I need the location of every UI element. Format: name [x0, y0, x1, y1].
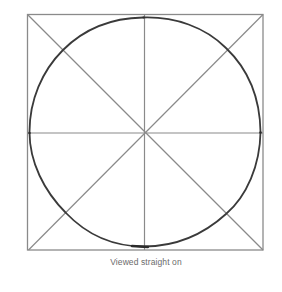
tangent-mark-left	[28, 132, 30, 134]
tangent-mark-top	[142, 16, 144, 18]
tangent-mark-bottom	[132, 246, 148, 247]
circle-in-square-diagram: Viewed straight on	[0, 0, 282, 292]
diagram-canvas	[0, 0, 282, 292]
tangent-mark-right	[259, 131, 261, 133]
figure-caption: Viewed straight on	[0, 257, 282, 267]
